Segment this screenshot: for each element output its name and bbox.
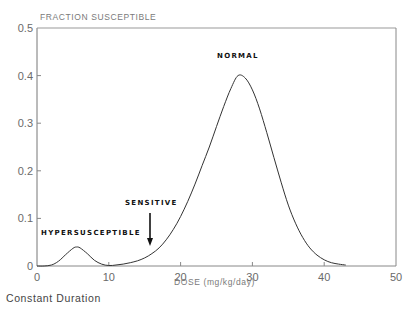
y-tick-label: 0.4 <box>18 70 33 82</box>
y-tick-label: 0.2 <box>18 165 33 177</box>
annotation-normal: NORMAL <box>217 52 259 60</box>
chart: 00.10.20.30.40.5 01020304050 FRACTION SU… <box>0 0 415 316</box>
y-tick-label: 0.1 <box>18 212 33 224</box>
susceptibility-curve <box>37 75 346 266</box>
x-tick-label: 10 <box>103 271 115 283</box>
x-tick-label: 0 <box>34 271 40 283</box>
annotation-hypersusceptible: HYPERSUSCEPTIBLE <box>41 229 141 237</box>
y-tick-label: 0 <box>27 260 33 272</box>
chart-caption: Constant Duration <box>6 292 101 304</box>
x-axis-title: DOSE (mg/kg/day) <box>174 277 255 287</box>
y-ticks: 00.10.20.30.40.5 <box>18 22 41 272</box>
y-axis-title: FRACTION SUSCEPTIBLE <box>40 12 156 22</box>
y-tick-label: 0.3 <box>18 117 33 129</box>
x-tick-label: 40 <box>318 271 330 283</box>
y-tick-label: 0.5 <box>18 22 33 34</box>
x-tick-label: 50 <box>390 271 402 283</box>
annotation-sensitive: SENSITIVE <box>125 199 178 207</box>
arrow-down-icon <box>147 213 153 246</box>
